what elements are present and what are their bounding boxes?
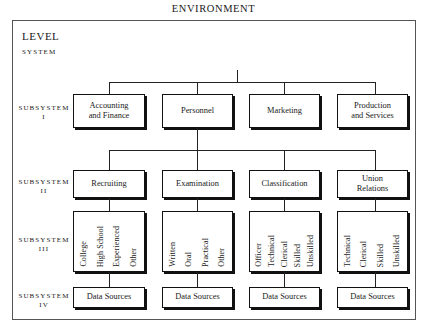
box-label: Recruiting [89,179,128,189]
connector-personnel-down [197,128,198,150]
vertical-label: Technical [268,235,276,267]
vertical-label: Unskilled [393,235,401,267]
level-label-subsystem-2-numeral: II [14,187,74,195]
vertical-label: Written [169,242,177,267]
box-marketing[interactable]: Marketing [249,94,320,128]
vertical-label: Clerical [360,241,368,267]
level-label-subsystem-2: SUBSYSTEM [14,178,74,186]
connector-drop-s1-4 [375,82,376,94]
connector-s2-s3-3 [284,198,285,211]
connector-drop-s1-2 [197,82,198,94]
box-personnel[interactable]: Personnel [162,94,233,128]
connector-drop-s2-4 [375,150,376,170]
box-recruiting[interactable]: Recruiting [73,170,145,198]
vertical-label: Clerical [281,241,289,267]
box-label: Classification [259,179,309,189]
box-label: Examination [174,179,221,189]
diagram-canvas: ENVIRONMENT LEVEL SYSTEM SUBSYSTEM I SUB… [0,0,427,334]
box-union-relations-categories[interactable]: Technical Clerical Skilled Unskilled [337,211,408,272]
connector-drop-s2-2 [197,150,198,170]
connector-bus-subsystem-1 [109,82,375,83]
level-label-subsystem-4-numeral: IV [14,301,74,309]
connector-s3-s4-3 [284,272,285,287]
box-data-sources-2[interactable]: Data Sources [162,287,233,308]
box-label: Union Relations [355,174,391,195]
level-label-subsystem-4: SUBSYSTEM [14,292,74,300]
box-recruiting-sources[interactable]: College High School Experienced Other [73,211,145,272]
box-classification[interactable]: Classification [249,170,320,198]
box-examination[interactable]: Examination [162,170,233,198]
level-label-system: SYSTEM [22,48,92,56]
connector-drop-s2-3 [284,150,285,170]
connector-drop-s1-1 [109,82,110,94]
box-accounting-and-finance[interactable]: Accounting and Finance [73,94,145,128]
level-label-subsystem-1-numeral: I [14,113,74,121]
box-label: Data Sources [260,292,308,302]
vertical-label: Other [130,248,138,267]
connector-s2-s3-1 [109,198,110,211]
box-classification-categories[interactable]: Officer Technical Clerical Skilled Unski… [249,211,320,272]
connector-drop-s2-1 [109,150,110,170]
box-label: Personnel [179,106,216,116]
vertical-label: Unskilled [307,235,315,267]
level-column-header: LEVEL [22,30,92,43]
connector-s3-s4-4 [375,272,376,287]
box-label: Accounting and Finance [87,101,132,122]
vertical-label: Practical [202,238,210,267]
connector-drop-s1-3 [284,82,285,94]
vertical-label: Experienced [113,226,121,267]
connector-s2-s3-4 [375,198,376,211]
box-production-and-services[interactable]: Production and Services [337,94,408,128]
box-label: Data Sources [348,292,396,302]
vertical-label: Oral [185,252,193,267]
box-data-sources-4[interactable]: Data Sources [337,287,408,308]
box-data-sources-1[interactable]: Data Sources [73,287,145,308]
vertical-label: Technical [344,235,352,267]
vertical-label: Skilled [377,244,385,267]
environment-title: ENVIRONMENT [0,3,427,14]
connector-bus-subsystem-2 [109,150,375,151]
vertical-label: Officer [255,243,263,267]
level-label-subsystem-3: SUBSYSTEM [14,236,74,244]
vertical-label: Skilled [294,244,302,267]
connector-s2-s3-2 [197,198,198,211]
box-label: Data Sources [85,292,133,302]
box-label: Production and Services [349,101,396,122]
box-data-sources-3[interactable]: Data Sources [249,287,320,308]
connector-s3-s4-1 [109,272,110,287]
box-union-relations[interactable]: Union Relations [337,170,408,198]
box-label: Marketing [265,106,304,116]
box-examination-types[interactable]: Written Oral Practical Other [162,211,233,272]
vertical-label: High School [97,226,105,267]
level-label-subsystem-3-numeral: III [14,245,74,253]
connector-system-down [237,70,238,82]
box-label: Data Sources [173,292,221,302]
vertical-label: Other [218,248,226,267]
vertical-label: College [80,241,88,267]
level-label-subsystem-1: SUBSYSTEM [14,104,74,112]
connector-s3-s4-2 [197,272,198,287]
